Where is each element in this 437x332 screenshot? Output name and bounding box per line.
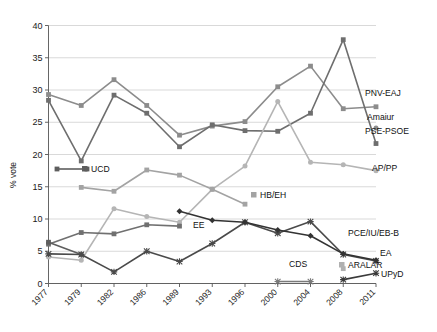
series-label-text: EE — [193, 220, 205, 230]
series-label-swatch — [251, 192, 257, 198]
data-point-marker — [144, 103, 149, 108]
data-point-marker — [79, 103, 84, 108]
data-point-marker — [210, 187, 215, 192]
data-point-marker — [79, 185, 84, 190]
data-point-marker — [341, 37, 346, 42]
series-label-text: AP/PP — [372, 163, 398, 173]
series-label-text: UPyD — [381, 269, 403, 279]
series-label-upyd: UPyD — [381, 269, 403, 279]
data-point-marker — [308, 233, 314, 239]
data-point-marker — [275, 84, 280, 89]
data-point-marker — [308, 64, 313, 69]
y-axis-title: % vote — [8, 162, 18, 188]
series-pse-psoe — [46, 37, 378, 163]
data-point-marker — [112, 231, 117, 236]
series-label-text: CDS — [289, 259, 307, 269]
y-tick-label: 20 — [32, 150, 42, 160]
data-point-marker — [46, 98, 51, 103]
series-line — [49, 242, 82, 254]
data-point-marker — [177, 208, 183, 214]
x-tick-label: 1989 — [160, 287, 181, 308]
data-point-marker — [79, 230, 84, 235]
data-point-marker — [45, 251, 51, 257]
y-tick-label: 40 — [32, 21, 42, 31]
data-point-marker — [210, 122, 215, 127]
series-ee — [46, 222, 182, 246]
y-tick-label: 10 — [32, 214, 42, 224]
series-upyd — [340, 270, 379, 283]
data-point-marker — [373, 270, 379, 276]
data-point-marker — [112, 206, 117, 211]
data-point-marker — [144, 168, 149, 173]
data-point-marker — [46, 92, 51, 97]
data-point-marker — [243, 164, 248, 169]
data-point-marker — [144, 214, 149, 219]
series-label-pce-iu-eb-b: PCE/IU/EB-B — [348, 228, 399, 238]
x-tick-label: 2004 — [291, 287, 312, 308]
y-tick-label: 30 — [32, 85, 42, 95]
data-point-marker — [275, 99, 280, 104]
data-point-marker — [209, 217, 215, 223]
data-point-marker — [79, 159, 84, 164]
y-axis-title-text: % vote — [8, 162, 18, 188]
data-point-marker — [341, 106, 346, 111]
x-tick-label: 1986 — [128, 287, 149, 308]
y-tick-label: 5 — [37, 246, 42, 256]
series-label-swatch — [339, 262, 345, 268]
data-point-marker — [111, 269, 117, 275]
ucd-legend-marker — [55, 167, 60, 172]
series-label-pse-psoe: PSE-PSOE — [365, 126, 409, 136]
data-point-marker — [374, 141, 379, 146]
x-tick-label: 2011 — [357, 287, 377, 307]
data-point-marker — [79, 258, 84, 263]
x-tick-label: 1996 — [226, 287, 247, 308]
data-point-marker — [340, 276, 346, 282]
series-label-text: HB/EH — [260, 190, 286, 200]
y-tick-label: 35 — [32, 53, 42, 63]
data-point-marker — [78, 251, 84, 257]
chart-canvas: 0510152025303540 19771979198219861989199… — [0, 0, 437, 332]
data-point-marker — [177, 173, 182, 178]
x-tick-label: 2008 — [324, 287, 345, 308]
ucd-legend-marker — [85, 167, 90, 172]
data-point-marker — [308, 111, 313, 116]
data-series — [45, 37, 379, 284]
series-label-text: ARALAR — [348, 260, 382, 270]
series-label-ap-pp: AP/PP — [372, 163, 398, 173]
series-label-cds: CDS — [289, 259, 307, 269]
series-label-text: PNV-EAJ — [365, 88, 401, 98]
data-point-marker — [177, 133, 182, 138]
x-tick-label: 1977 — [29, 287, 50, 308]
data-point-marker — [144, 222, 149, 227]
data-point-marker — [177, 224, 182, 229]
data-point-marker — [112, 77, 117, 82]
data-point-marker — [112, 93, 117, 98]
data-point-marker — [275, 129, 280, 134]
y-tick-label: 25 — [32, 117, 42, 127]
data-point-marker — [374, 104, 379, 109]
series-label-text: Amaiur — [367, 112, 394, 122]
data-point-marker — [144, 111, 149, 116]
inline-series-labels: UCDEEHB/EHPNV-EAJAmaiurPSE-PSOEAP/PPPCE/… — [55, 88, 410, 279]
data-point-marker — [243, 128, 248, 133]
x-tick-label: 1982 — [95, 287, 116, 308]
data-point-marker — [243, 119, 248, 124]
data-point-marker — [308, 160, 313, 165]
series-line — [49, 222, 377, 272]
data-point-marker — [341, 162, 346, 167]
y-axis-ticks: 0510152025303540 — [32, 21, 48, 289]
series-label-ee: EE — [193, 220, 205, 230]
data-point-marker — [307, 218, 313, 224]
data-point-marker — [177, 144, 182, 149]
series-label-text: PSE-PSOE — [365, 126, 409, 136]
data-point-marker — [209, 240, 215, 246]
series-label-pnv-eaj: PNV-EAJ — [365, 88, 401, 98]
series-label-hb-eh: HB/EH — [251, 190, 286, 200]
series-label-ea: EA — [380, 248, 392, 258]
series-line — [343, 273, 376, 279]
data-point-marker — [243, 202, 248, 207]
data-point-marker — [176, 258, 182, 264]
series-label-text: EA — [380, 248, 392, 258]
x-tick-label: 1993 — [193, 287, 214, 308]
series-label-amaiur: Amaiur — [367, 112, 394, 122]
